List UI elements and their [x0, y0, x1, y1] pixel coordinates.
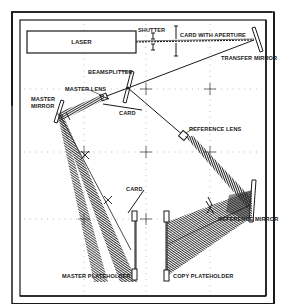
- card-with-aperture-label: CARD WITH APERTURE: [180, 32, 246, 38]
- master-mirror-label-line1: MASTER: [31, 96, 55, 102]
- grid-dotted-lines: [24, 24, 262, 294]
- laser-label: LASER: [27, 31, 136, 53]
- beam-fan-to-copy-plate: [167, 190, 252, 276]
- beam-splitter-to-reference-lens: [128, 88, 184, 136]
- reference-lens-label: REFERENCE LENS: [189, 126, 241, 132]
- card-bottom-label: CARD: [126, 186, 143, 192]
- master-mirror-label-line2: MIRROR: [31, 103, 54, 109]
- master-lens-label: MASTER LENS: [65, 86, 106, 92]
- beamsplitter: [123, 71, 134, 103]
- copy-plateholder-label: COPY PLATEHOLDER: [173, 273, 233, 279]
- beamsplitter-label: BEAMSPLITTER: [88, 69, 133, 75]
- card-bottom: [128, 190, 144, 213]
- optical-layout-diagram: LASER SHUTTER CARD WITH APERTURE TRANSFE…: [0, 0, 286, 304]
- reference-mirror-label: REFERENCE MIRROR: [218, 216, 278, 222]
- shutter-label: SHUTTER: [138, 27, 165, 33]
- master-plateholder: [132, 211, 137, 280]
- label-leaders: [87, 71, 194, 133]
- card-top-label: CARD: [119, 110, 136, 116]
- master-plateholder-label: MASTER PLATEHOLDER: [62, 273, 131, 279]
- beam-fan-to-master-mirror: [58, 94, 104, 122]
- beam-transfer-to-splitter: [128, 40, 254, 88]
- transfer-mirror-label: TRANSFER MIRROR: [221, 55, 277, 61]
